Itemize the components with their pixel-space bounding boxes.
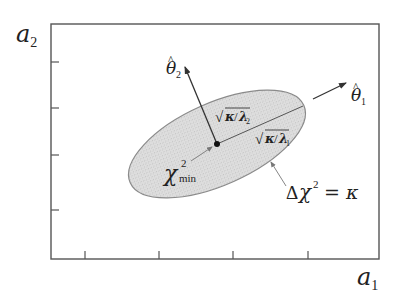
theta2-label: θ ^ 2 [166, 53, 181, 80]
theta1-arrow [313, 83, 346, 99]
svg-text:2: 2 [176, 69, 181, 80]
svg-text:min: min [179, 172, 197, 184]
svg-text:2: 2 [181, 157, 187, 169]
svg-text:χ: χ [297, 180, 313, 204]
svg-text:2: 2 [246, 117, 250, 126]
svg-text:= κ: = κ [318, 181, 359, 203]
y-axis-label: a2 [16, 20, 37, 50]
minor-semi-axis-label: √ κ / λ 2 [215, 108, 250, 126]
theta1-label: θ ^ 1 [351, 80, 366, 107]
y-axis-ticks [51, 62, 59, 210]
x-axis-label: a1 [357, 263, 378, 293]
major-semi-axis-label: √ κ / λ 1 [255, 130, 290, 148]
confidence-ellipse-diagram: a2 a1 θ ^ 2 θ ^ 1 √ κ / λ 2 √ κ / [0, 0, 399, 299]
chi2-min-point [214, 141, 220, 147]
x-axis-ticks [85, 251, 308, 259]
svg-text:1: 1 [286, 139, 290, 148]
svg-text:√: √ [255, 131, 264, 147]
delta-chi2-label: Δ χ 2 = κ [286, 178, 359, 204]
svg-text:1: 1 [361, 96, 366, 107]
svg-text:χ: χ [162, 161, 179, 186]
boundary-pointer [271, 162, 286, 186]
svg-text:Δ: Δ [286, 182, 298, 203]
svg-text:^: ^ [168, 53, 174, 67]
svg-text:/: / [234, 109, 238, 124]
svg-text:^: ^ [353, 80, 359, 94]
svg-text:/: / [274, 131, 278, 146]
svg-text:√: √ [215, 109, 224, 125]
